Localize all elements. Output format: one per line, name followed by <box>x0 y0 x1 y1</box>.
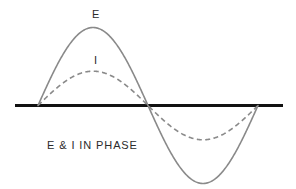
voltage-curve-label: E <box>92 9 100 20</box>
waveform-figure: E I E & I IN PHASE <box>0 0 296 189</box>
figure-caption: E & I IN PHASE <box>47 140 138 151</box>
current-curve-label: I <box>94 55 97 66</box>
waveform-plot <box>0 0 296 189</box>
